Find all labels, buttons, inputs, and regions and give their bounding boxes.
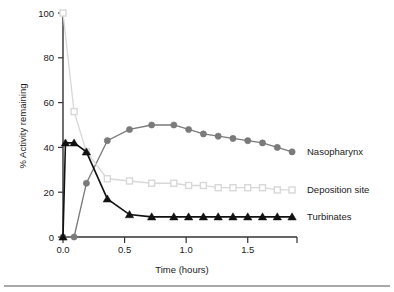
data-point-square	[274, 187, 280, 193]
data-point-circle	[71, 234, 77, 240]
x-tick-label: 0.0	[56, 244, 69, 255]
y-tick-label: 20	[43, 187, 54, 198]
series-line	[63, 13, 292, 190]
data-point-square	[289, 187, 295, 193]
data-point-circle	[215, 133, 221, 139]
data-point-square	[230, 185, 236, 191]
data-point-circle	[126, 126, 132, 132]
y-tick-label: 80	[43, 52, 54, 63]
data-point-circle	[274, 144, 280, 150]
x-tick-label: 1.0	[180, 244, 193, 255]
data-point-circle	[104, 138, 110, 144]
y-tick-label: 100	[38, 8, 54, 19]
x-axis: 0.00.51.01.5	[56, 237, 297, 255]
x-axis-title: Time (hours)	[155, 264, 209, 275]
data-point-circle	[245, 138, 251, 144]
data-point-square	[260, 185, 266, 191]
y-tick-label: 40	[43, 142, 54, 153]
data-point-square	[245, 185, 251, 191]
data-point-square	[200, 182, 206, 188]
data-point-circle	[259, 140, 265, 146]
data-point-circle	[230, 135, 236, 141]
data-point-square	[186, 182, 192, 188]
data-point-square	[104, 176, 110, 182]
data-point-square	[215, 185, 221, 191]
series-line	[63, 143, 292, 237]
data-series-group	[59, 10, 296, 240]
data-point-circle	[171, 122, 177, 128]
y-tick-label: 60	[43, 97, 54, 108]
data-point-circle	[200, 131, 206, 137]
chart-figure: 020406080100 0.00.51.01.5 NasopharynxDep…	[0, 0, 394, 292]
y-tick-label: 0	[49, 232, 54, 243]
data-point-circle	[83, 180, 89, 186]
data-point-square	[171, 180, 177, 186]
data-point-square	[60, 10, 66, 16]
data-point-square	[127, 178, 133, 184]
series-label-deposition-site: Deposition site	[307, 184, 369, 195]
data-point-square	[71, 109, 77, 115]
activity-remaining-line-chart: 020406080100 0.00.51.01.5 NasopharynxDep…	[0, 0, 394, 292]
data-point-circle	[289, 149, 295, 155]
series-label-nasopharynx: Nasopharynx	[307, 146, 363, 157]
y-axis-title: % Activity remaining	[17, 83, 28, 168]
data-point-triangle	[103, 195, 111, 202]
y-axis: 020406080100	[38, 8, 63, 243]
series-label-turbinates: Turbinates	[307, 211, 352, 222]
x-tick-label: 0.5	[118, 244, 131, 255]
x-tick-label: 1.5	[241, 244, 254, 255]
data-point-circle	[149, 122, 155, 128]
data-point-circle	[186, 126, 192, 132]
data-point-square	[149, 180, 155, 186]
series-labels: NasopharynxDeposition siteTurbinates	[307, 146, 369, 222]
